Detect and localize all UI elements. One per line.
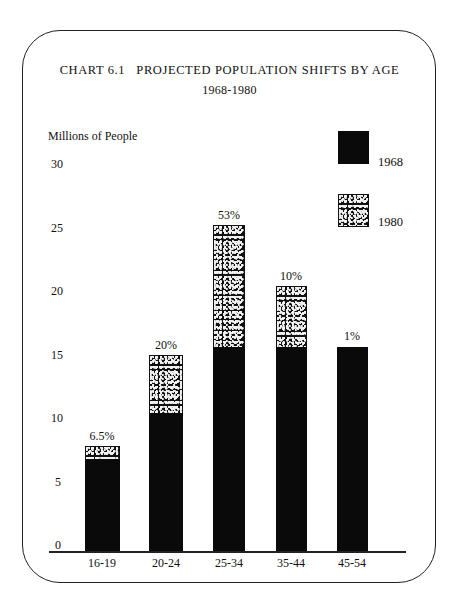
bar-segment-1980 (85, 446, 120, 460)
y-tick-label: 5 (55, 475, 75, 489)
bar-35-44 (276, 286, 307, 552)
y-tick-label: 25 (51, 221, 71, 235)
y-axis-label: Millions of People (48, 129, 137, 144)
bar-45-54 (337, 346, 368, 552)
x-tick-label: 20-24 (136, 556, 196, 571)
x-tick-label: 25-34 (199, 556, 259, 571)
bar-16-19 (85, 446, 120, 552)
x-tick-label: 45-54 (322, 556, 382, 571)
legend-swatch-1980 (338, 194, 369, 227)
bar-segment-1968 (337, 347, 368, 552)
bar-segment-1980 (149, 355, 183, 414)
chart-title: CHART 6.1 PROJECTED POPULATION SHIFTS BY… (0, 63, 459, 78)
chart-subtitle: 1968-1980 (0, 83, 459, 98)
bar-segment-1968 (276, 347, 307, 552)
x-tick-label: 16-19 (72, 556, 132, 571)
y-tick-label: 0 (55, 538, 75, 552)
x-axis-line (49, 551, 406, 553)
bar-segment-1980 (276, 286, 307, 348)
y-tick-label: 15 (51, 348, 71, 362)
y-tick-label: 30 (51, 157, 71, 171)
growth-percent-label: 1% (322, 329, 382, 343)
growth-percent-label: 20% (136, 338, 196, 352)
bar-segment-1980 (213, 225, 245, 348)
growth-percent-label: 53% (199, 208, 259, 222)
y-tick-label: 10 (51, 411, 71, 425)
bar-segment-1968 (213, 347, 245, 552)
legend-label-1968: 1968 (378, 155, 403, 170)
bar-25-34 (213, 225, 245, 552)
legend-label-1980: 1980 (378, 215, 403, 230)
bar-20-24 (149, 355, 183, 552)
legend-swatch-1968 (338, 131, 369, 164)
y-tick-label: 20 (51, 284, 71, 298)
bar-segment-1968 (85, 459, 120, 552)
x-tick-label: 35-44 (261, 556, 321, 571)
growth-percent-label: 6.5% (72, 429, 132, 443)
growth-percent-label: 10% (261, 269, 321, 283)
bar-segment-1968 (149, 413, 183, 552)
